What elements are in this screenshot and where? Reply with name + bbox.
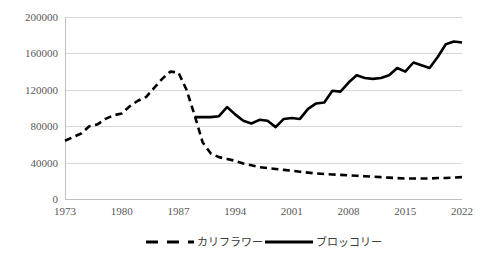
- y-tick-label: 40000: [31, 157, 59, 169]
- x-tick-label: 1973: [54, 205, 77, 217]
- x-tick-label: 1994: [224, 205, 247, 217]
- x-tick-label: 2022: [451, 205, 473, 217]
- y-tick-label: 200000: [25, 11, 59, 23]
- x-tick-label: 2008: [338, 205, 361, 217]
- y-axis-tick-labels: 04000080000120000160000200000: [25, 11, 59, 205]
- chart-container: 04000080000120000160000200000 1973198019…: [0, 0, 484, 263]
- x-tick-label: 1980: [111, 205, 134, 217]
- y-tick-label: 80000: [31, 120, 59, 132]
- axes-group: [65, 17, 462, 200]
- x-tick-label: 2001: [281, 205, 303, 217]
- gridlines-group: [65, 18, 462, 200]
- x-tick-label: 2015: [394, 205, 417, 217]
- x-tick-label: 1987: [167, 205, 190, 217]
- x-axis-tick-labels: 19731980198719942001200820152022: [54, 205, 473, 217]
- legend-label-1: カリフラワー: [197, 236, 263, 248]
- series-line-1: [65, 72, 462, 179]
- y-tick-label: 0: [53, 193, 59, 205]
- series-line-2: [195, 42, 462, 128]
- chart-legend: カリフラワーブロッコリー: [146, 235, 382, 248]
- data-series-group: [65, 42, 462, 179]
- legend-label-2: ブロッコリー: [316, 235, 382, 248]
- y-tick-label: 160000: [25, 47, 59, 59]
- line-chart: 04000080000120000160000200000 1973198019…: [0, 0, 484, 263]
- y-tick-label: 120000: [25, 84, 59, 96]
